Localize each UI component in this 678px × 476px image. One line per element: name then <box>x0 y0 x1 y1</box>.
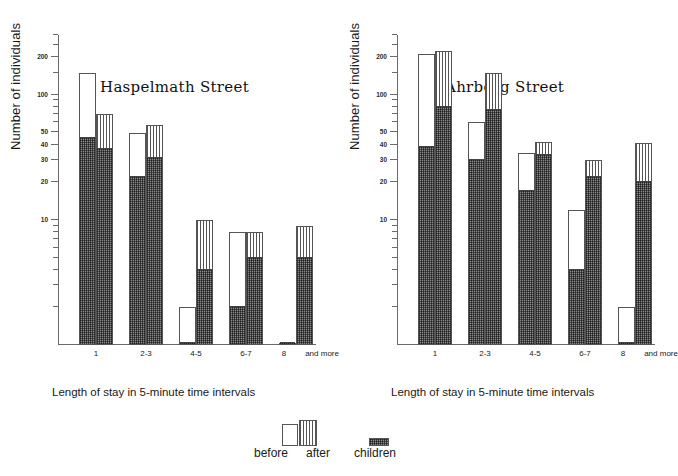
bar-segment-children <box>619 342 634 344</box>
bar-segment-children <box>586 176 601 344</box>
x-tick-label: 8 <box>621 349 625 358</box>
x-axis-caption: Length of stay in 5-minute time interval… <box>391 386 594 398</box>
y-tick-minor <box>53 34 58 35</box>
x-tick-label: 8 <box>282 349 286 358</box>
bar-after <box>435 51 452 345</box>
y-tick-label: 200 <box>37 53 48 60</box>
y-tick: 30 <box>51 159 58 160</box>
y-tick-minor <box>53 238 58 239</box>
x-tick-label: 4-5 <box>190 349 202 358</box>
y-tick: 20 <box>51 181 58 182</box>
y-tick-minor <box>53 257 58 258</box>
y-tick: 30 <box>390 159 397 160</box>
bar-before <box>229 232 246 345</box>
bar-segment-children <box>230 306 245 344</box>
y-tick-minor <box>392 225 397 226</box>
y-tick: 100 <box>390 94 397 95</box>
y-tick-label: 10 <box>380 215 387 222</box>
y-tick-label: 20 <box>41 178 48 185</box>
bar-segment-children <box>636 181 651 344</box>
bar-segment-children <box>130 176 145 344</box>
legend-children-label: children <box>354 446 396 460</box>
y-tick: 10 <box>51 219 58 220</box>
y-tick-minor <box>392 34 397 35</box>
y-tick-label: 50 <box>380 128 387 135</box>
bar-before <box>568 210 585 345</box>
y-tick-minor <box>53 44 58 45</box>
x-tick-label-suffix: and more <box>305 349 339 358</box>
y-tick-label: 100 <box>37 90 48 97</box>
legend-after-swatch <box>299 420 317 446</box>
bar-before <box>279 343 296 345</box>
bar-after <box>296 226 313 345</box>
bar-segment-children <box>436 106 451 344</box>
x-tick-label: 4-5 <box>529 349 541 358</box>
plot-area: 102030405010020012-34-56-78and more <box>397 35 647 345</box>
y-axis-label: Number of individuals <box>8 0 23 150</box>
y-tick-minor <box>53 284 58 285</box>
bar-segment-children <box>469 159 484 344</box>
bar-segment-children <box>486 109 501 344</box>
bar-before <box>618 307 635 345</box>
y-tick-minor <box>392 44 397 45</box>
x-axis-caption: Length of stay in 5-minute time interval… <box>52 386 255 398</box>
y-axis-line <box>58 35 59 345</box>
y-tick-label: 10 <box>41 215 48 222</box>
y-tick-minor <box>53 72 58 73</box>
x-tick-label: 2-3 <box>140 349 152 358</box>
y-tick-minor <box>392 247 397 248</box>
y-tick-label: 30 <box>41 156 48 163</box>
y-tick-minor <box>53 121 58 122</box>
bar-segment-children <box>80 137 95 344</box>
bar-after <box>635 143 652 345</box>
bar-after <box>196 220 213 345</box>
bar-segment-children <box>197 269 212 344</box>
y-tick: 50 <box>51 131 58 132</box>
y-tick-label: 40 <box>380 140 387 147</box>
y-tick: 40 <box>51 144 58 145</box>
bar-segment-children <box>280 342 295 344</box>
bar-segment-children <box>419 146 434 344</box>
y-tick-minor <box>392 72 397 73</box>
y-tick-label: 50 <box>41 128 48 135</box>
y-tick-minor <box>53 225 58 226</box>
y-tick-label: 200 <box>376 53 387 60</box>
legend-after-label: after <box>306 446 330 460</box>
y-tick: 200 <box>390 56 397 57</box>
x-tick-label: 1 <box>94 349 98 358</box>
bar-segment-children <box>97 148 112 344</box>
x-tick-label: 1 <box>433 349 437 358</box>
legend: before after children <box>254 418 454 468</box>
y-tick-minor <box>53 106 58 107</box>
bar-after <box>146 125 163 345</box>
y-tick-minor <box>53 99 58 100</box>
x-tick-label: 2-3 <box>479 349 491 358</box>
bar-after <box>485 73 502 345</box>
y-axis-line <box>397 35 398 345</box>
y-tick-minor <box>392 284 397 285</box>
bar-before <box>179 307 196 345</box>
y-tick: 100 <box>51 94 58 95</box>
y-tick: 40 <box>390 144 397 145</box>
y-tick-minor <box>53 269 58 270</box>
bar-segment-children <box>297 257 312 344</box>
y-tick-minor <box>392 231 397 232</box>
chart-panel-haspelmath: Number of individuals Haspelmath Street … <box>0 0 339 410</box>
y-tick-label: 30 <box>380 156 387 163</box>
y-tick-minor <box>392 238 397 239</box>
x-tick-label: 6-7 <box>240 349 252 358</box>
y-tick: 50 <box>390 131 397 132</box>
bar-segment-children <box>180 342 195 344</box>
legend-before-swatch <box>282 424 298 446</box>
bar-after <box>246 232 263 345</box>
bar-after <box>585 160 602 345</box>
bar-before <box>79 73 96 345</box>
y-tick-minor <box>392 99 397 100</box>
y-tick-label: 100 <box>376 90 387 97</box>
x-tick-label: 6-7 <box>579 349 591 358</box>
x-tick-label-suffix: and more <box>644 349 678 358</box>
legend-before-label: before <box>254 446 288 460</box>
bar-segment-children <box>519 190 534 344</box>
bar-before <box>129 133 146 345</box>
y-tick-minor <box>392 257 397 258</box>
